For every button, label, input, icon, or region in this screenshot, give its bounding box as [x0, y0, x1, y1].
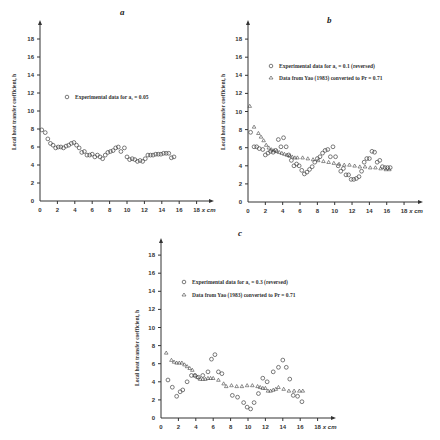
x-tick-label: 2: [56, 207, 60, 213]
data-point-circle: [300, 400, 304, 404]
chart-a: a Local heat transfer coefficient, h 024…: [11, 7, 216, 213]
data-point-triangle: [296, 156, 300, 159]
chart-b-axes: 024681012141618024681012141618x cm: [235, 20, 423, 214]
x-tick-label: 14: [366, 208, 373, 214]
y-tick-label: 4: [152, 379, 156, 385]
data-point-circle: [334, 155, 338, 159]
data-point-circle: [166, 378, 170, 382]
data-point-circle: [43, 131, 47, 135]
chart-c: c Local heat transfer coefficient, h 024…: [134, 228, 337, 430]
data-point-circle: [257, 392, 261, 396]
data-point-circle: [367, 157, 371, 161]
chart-a-legend-label-0: Experimental data for a₁ = 0.05: [75, 94, 149, 100]
data-point-triangle: [251, 384, 255, 387]
x-tick-label: 18: [314, 424, 321, 430]
data-point-circle: [220, 372, 224, 376]
legend-circle-icon: [182, 280, 186, 284]
x-tick-label: 4: [73, 207, 77, 213]
chart-b-ylabel: Local heat transfer coefficient, h: [220, 74, 226, 150]
y-tick-label: 10: [235, 109, 242, 115]
chart-b-legend-label-0: Experimental data for a₁ = 0.1 (reversed…: [279, 63, 375, 70]
data-point-circle: [291, 393, 295, 397]
data-point-triangle: [282, 387, 286, 390]
x-axis-arrow-icon: [418, 200, 423, 204]
data-point-triangle: [374, 166, 378, 169]
x-tick-label: 4: [281, 208, 285, 214]
data-point-circle: [310, 165, 314, 169]
y-tick-label: 14: [148, 288, 155, 294]
y-tick-label: 18: [27, 36, 34, 42]
x-axis-arrow-icon: [331, 416, 336, 420]
data-point-circle: [265, 380, 269, 384]
data-point-circle: [167, 151, 171, 155]
data-point-triangle: [301, 156, 305, 159]
data-point-triangle: [264, 143, 268, 146]
chart-c-legend-label-1: Data from Yao (1983) converted to Pr = 0…: [192, 292, 296, 299]
y-tick-label: 16: [235, 54, 242, 60]
data-point-triangle: [264, 386, 268, 389]
legend-circle-icon: [65, 95, 69, 99]
x-tick-label: 18: [193, 207, 200, 213]
data-point-triangle: [322, 159, 326, 162]
data-point-triangle: [217, 378, 221, 381]
x-tick-label: 4: [194, 424, 198, 430]
data-point-triangle: [235, 385, 239, 388]
y-tick-label: 18: [148, 252, 155, 258]
x-tick-label: 0: [246, 208, 250, 214]
y-tick-label: 0: [239, 199, 243, 205]
figure-canvas: a Local heat transfer coefficient, h 024…: [0, 0, 440, 440]
legend-triangle-icon: [182, 293, 186, 296]
y-tick-label: 14: [235, 72, 242, 78]
x-tick-label: 6: [298, 208, 302, 214]
data-point-triangle: [348, 163, 352, 166]
x-tick-label: 10: [124, 207, 131, 213]
data-point-triangle: [292, 389, 296, 392]
data-point-circle: [119, 150, 123, 154]
chart-a-points: [40, 128, 176, 163]
data-point-circle: [271, 370, 275, 374]
data-point-circle: [242, 401, 246, 405]
y-tick-label: 2: [239, 181, 243, 187]
data-point-circle: [143, 157, 147, 161]
data-point-triangle: [240, 385, 244, 388]
x-tick-label: 8: [316, 208, 320, 214]
y-tick-label: 2: [152, 397, 156, 403]
data-point-circle: [252, 401, 256, 405]
x-tick-label: 2: [264, 208, 268, 214]
data-point-triangle: [257, 131, 261, 134]
y-tick-label: 18: [235, 36, 242, 42]
data-point-circle: [185, 380, 189, 384]
y-tick-label: 6: [239, 145, 243, 151]
data-point-circle: [341, 167, 345, 171]
y-tick-label: 10: [148, 325, 155, 331]
data-point-triangle: [222, 382, 226, 385]
y-tick-label: 8: [152, 343, 156, 349]
data-point-circle: [300, 168, 304, 172]
data-point-triangle: [298, 389, 302, 392]
chart-c-ylabel: Local heat transfer coefficient, h: [134, 310, 140, 386]
data-point-triangle: [358, 165, 362, 168]
data-point-circle: [362, 160, 366, 164]
chart-a-title: a: [120, 7, 125, 17]
x-tick-label: 12: [349, 208, 356, 214]
data-point-triangle: [342, 163, 346, 166]
data-point-circle: [249, 407, 253, 411]
chart-c-points: [164, 351, 304, 411]
data-point-triangle: [368, 166, 372, 169]
chart-c-legend: Experimental data for a₁ = 0.3 (reversed…: [182, 279, 296, 299]
data-point-circle: [230, 393, 234, 397]
data-point-triangle: [287, 389, 291, 392]
chart-b: b Local heat transfer coefficient, h 024…: [220, 15, 424, 214]
data-point-circle: [210, 357, 214, 361]
x-tick-label: 6: [212, 424, 216, 430]
data-point-triangle: [262, 139, 266, 142]
legend-triangle-icon: [269, 76, 273, 79]
data-point-circle: [175, 394, 179, 398]
data-point-triangle: [301, 389, 305, 392]
data-point-circle: [170, 385, 174, 389]
data-point-triangle: [306, 157, 310, 160]
data-point-triangle: [259, 135, 263, 138]
y-tick-label: 14: [27, 72, 34, 78]
y-tick-label: 0: [152, 415, 156, 421]
y-tick-label: 8: [31, 126, 35, 132]
